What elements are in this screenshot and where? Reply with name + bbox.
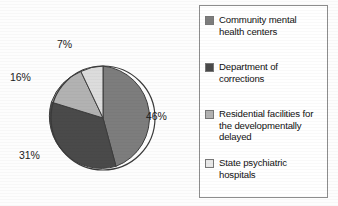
- legend-swatch-icon: [205, 159, 214, 168]
- pie-label-31-percent: 31%: [19, 149, 40, 161]
- pie-label-46-percent: 46%: [146, 110, 167, 122]
- legend-label-line-1: Residential facilities for: [219, 108, 313, 119]
- legend-panel: Community mental health centers Departme…: [199, 5, 328, 198]
- pie-chart-figure: 46% 31% 16% 7% Community mental health c…: [0, 0, 338, 206]
- legend-label-line-2: health centers: [219, 26, 277, 37]
- pie-label-7-percent: 7%: [57, 38, 72, 50]
- legend-label-line-1: State psychiatric: [219, 157, 287, 168]
- legend-item-label: Residential facilities for the developme…: [219, 108, 313, 143]
- legend-label-line-2: hospitals: [219, 169, 256, 180]
- pie-chart-plot-area: 46% 31% 16% 7%: [0, 0, 196, 206]
- legend-label-line-2: corrections: [219, 73, 264, 84]
- pie-label-16-percent: 16%: [10, 71, 31, 83]
- legend-item-label: State psychiatric hospitals: [219, 157, 287, 180]
- legend-item-community-mental-health-centers[interactable]: Community mental health centers: [205, 14, 327, 37]
- legend-item-state-psychiatric-hospitals[interactable]: State psychiatric hospitals: [205, 157, 327, 180]
- legend-label-line-2: the developmentally: [219, 120, 301, 131]
- legend-item-department-of-corrections[interactable]: Department of corrections: [205, 61, 327, 84]
- legend-swatch-icon: [205, 63, 214, 72]
- legend-item-label: Community mental health centers: [219, 14, 297, 37]
- legend-label-line-3: delayed: [219, 131, 252, 142]
- legend-label-line-1: Department of: [219, 61, 278, 72]
- legend-item-label: Department of corrections: [219, 61, 278, 84]
- legend-swatch-icon: [205, 110, 214, 119]
- legend-label-line-1: Community mental: [219, 14, 297, 25]
- legend-swatch-icon: [205, 16, 214, 25]
- pie-chart-svg: [0, 0, 196, 206]
- legend-item-residential-facilities[interactable]: Residential facilities for the developme…: [205, 108, 327, 143]
